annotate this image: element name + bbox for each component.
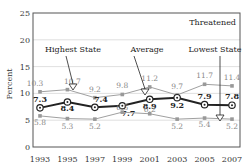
x-tick-label: 2003 — [167, 155, 187, 164]
data-label: 10.3 — [27, 79, 44, 88]
x-axis-ticks: 19931995199719992001200320052007 — [30, 155, 242, 164]
data-label: 5.2 — [171, 122, 183, 131]
data-label: 5.4 — [199, 120, 211, 129]
data-label: 9.7 — [171, 82, 183, 91]
data-label: 11.4 — [224, 73, 241, 82]
y-tick-label: 5 — [25, 116, 30, 125]
x-tick-label: 1993 — [30, 155, 50, 164]
data-label: 5.2 — [226, 122, 238, 131]
annotation-label: Average — [129, 45, 163, 54]
x-tick-label: 1997 — [85, 155, 105, 164]
line-chart: 0510152025 19931995199719992001200320052… — [0, 0, 251, 168]
data-label: 7.9 — [198, 91, 212, 101]
x-tick-label: 1995 — [57, 155, 77, 164]
x-tick-label: 2007 — [222, 155, 242, 164]
data-label: 5.8 — [34, 118, 46, 127]
data-point — [66, 88, 70, 92]
data-point — [66, 117, 70, 121]
y-tick-label: 15 — [20, 63, 30, 72]
data-label: 9.8 — [116, 81, 128, 90]
x-tick-label: 2001 — [140, 155, 160, 164]
data-label: 6.5 — [116, 103, 128, 112]
data-point — [230, 84, 234, 88]
arrow-icon — [69, 84, 77, 90]
annotation-label: Highest State — [45, 45, 101, 54]
series-average: 7.38.47.47.78.99.27.97.8 — [33, 91, 239, 118]
chart-title: Threatened — [189, 18, 236, 27]
data-label: 6.2 — [144, 105, 156, 114]
arrow-icon — [141, 89, 149, 95]
annotation-lowest-state: Lowest State — [189, 45, 242, 121]
data-label: 8.4 — [60, 103, 74, 113]
annotation-label: Lowest State — [189, 45, 242, 54]
data-label: 7.4 — [94, 94, 108, 104]
data-label: 9.2 — [170, 100, 184, 110]
data-label: 5.3 — [61, 122, 73, 131]
y-tick-label: 20 — [20, 36, 30, 45]
data-label: 9.2 — [89, 85, 101, 94]
x-tick-label: 1999 — [112, 155, 132, 164]
data-point — [175, 117, 179, 121]
annotation-highest-state: Highest State — [45, 45, 101, 90]
y-tick-label: 0 — [25, 143, 30, 152]
data-label: 11.2 — [141, 74, 158, 83]
data-point — [230, 117, 234, 121]
data-label: 7.8 — [225, 91, 239, 101]
data-point — [93, 117, 97, 121]
data-point — [203, 82, 207, 86]
data-label: 7.3 — [33, 94, 47, 104]
data-label: 11.7 — [196, 71, 213, 80]
y-tick-label: 25 — [20, 9, 30, 18]
x-tick-label: 2005 — [194, 155, 214, 164]
data-label: 5.2 — [89, 122, 101, 131]
series-group: 10.310.79.29.811.29.711.711.47.38.47.47.… — [27, 71, 241, 131]
data-point — [120, 93, 124, 97]
y-axis-label: Percent — [5, 68, 14, 100]
data-point — [148, 85, 152, 89]
y-tick-label: 10 — [20, 89, 30, 98]
